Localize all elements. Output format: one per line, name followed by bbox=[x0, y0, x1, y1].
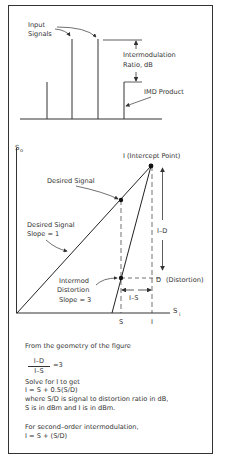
i-minus-s-label: I–S bbox=[129, 294, 138, 302]
formula-third-order: I = S + 0.5(S/D) bbox=[25, 386, 78, 394]
imd-product-label: IMD Product bbox=[144, 88, 184, 96]
spectrum-panel: Input Signals Intermodulation Ratio, dB … bbox=[20, 21, 184, 119]
i-minus-d-label: I–D bbox=[157, 227, 167, 235]
fraction-equals: =3 bbox=[53, 361, 63, 369]
y-axis-sub: o bbox=[20, 147, 23, 153]
intermod-arrow bbox=[96, 278, 117, 285]
fraction-denominator: I–S bbox=[28, 367, 50, 375]
where-line: where S/D is signal to distortion ratio … bbox=[25, 395, 168, 403]
intermod-label-2: Distortion bbox=[57, 286, 89, 294]
imr-label-2: Ratio, dB bbox=[123, 61, 153, 69]
desired-slope-arrow bbox=[46, 240, 67, 251]
input-signals-label-2: Signals bbox=[28, 30, 52, 38]
d-label: D bbox=[156, 276, 161, 284]
fraction-numerator: I–D bbox=[28, 357, 50, 367]
x-axis-sub: i bbox=[179, 311, 180, 317]
slope-fraction: I–D I–S =3 bbox=[28, 357, 50, 375]
intercept-label: I (Intercept Point) bbox=[123, 152, 180, 160]
desired-signal-label: Desired Signal bbox=[47, 177, 95, 185]
desired-signal-point bbox=[119, 198, 123, 202]
x-axis-label: S bbox=[173, 307, 178, 315]
desired-signal-arrow bbox=[76, 186, 118, 199]
imd-product-arrow bbox=[126, 97, 151, 106]
intermod-label-3: Slope = 3 bbox=[59, 296, 91, 304]
second-order-intro: For second–order intermodulation, bbox=[25, 423, 139, 431]
imd-point bbox=[119, 276, 123, 280]
units-line: S is in dBm and I is in dBm. bbox=[25, 404, 115, 412]
x-tick-s: S bbox=[119, 318, 123, 326]
intermod-label-1: Intermod bbox=[59, 277, 89, 285]
distortion-label: (Distortion) bbox=[166, 276, 203, 284]
input-signals-arrow-1 bbox=[55, 29, 70, 36]
input-signals-arrow-2 bbox=[57, 27, 96, 37]
desired-slope-label-1: Desired Signal bbox=[27, 221, 75, 229]
intercept-plot: S o S i I (Intercept Point) Desired Sign… bbox=[15, 144, 203, 326]
x-tick-i: I bbox=[151, 318, 153, 326]
geometry-intro: From the geometry of the figure bbox=[25, 342, 131, 350]
input-signals-label-1: Input bbox=[28, 21, 45, 29]
imr-label-1: Intermodulation bbox=[123, 51, 176, 59]
intercept-point bbox=[149, 164, 154, 169]
formula-second-order: I = S + (S/D) bbox=[25, 432, 67, 440]
desired-slope-label-2: Slope = 1 bbox=[27, 230, 59, 238]
